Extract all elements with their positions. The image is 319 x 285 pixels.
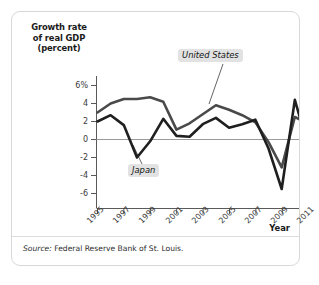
x-axis-title: Year xyxy=(269,223,290,233)
source-divider xyxy=(12,236,299,237)
y-tick-label-neg4: -4 xyxy=(62,171,88,180)
leader-line-united-states xyxy=(209,64,223,104)
y-tick-label-2: 2 xyxy=(62,117,88,126)
y-tick-label-neg2: -2 xyxy=(62,153,88,162)
y-axis-ticks xyxy=(91,86,97,194)
series-label-united-states: United States xyxy=(178,49,243,62)
chart-figure: Growth rate of real GDP (percent) xyxy=(11,11,300,266)
source-note: Source: Federal Reserve Bank of St. Loui… xyxy=(23,244,183,253)
y-tick-label-neg6: -6 xyxy=(62,189,88,198)
chart-plot-area: Growth rate of real GDP (percent) xyxy=(12,12,299,244)
source-text: Federal Reserve Bank of St. Louis. xyxy=(54,244,183,253)
y-tick-label-6: 6% xyxy=(62,81,88,90)
y-tick-label-0: 0 xyxy=(62,135,88,144)
source-prefix: Source: xyxy=(23,244,52,253)
series-label-japan: Japan xyxy=(128,164,159,177)
y-tick-label-4: 4 xyxy=(62,99,88,108)
